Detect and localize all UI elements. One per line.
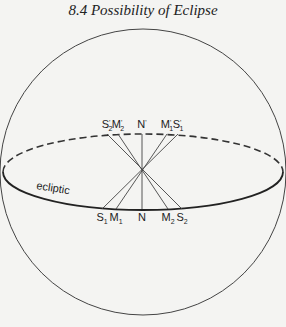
point-label-n: N <box>138 211 146 223</box>
ecliptic-label: ecliptic <box>36 179 72 196</box>
point-label-m1: M1 <box>109 211 122 225</box>
point-label-s2-prime: S'2 <box>102 118 113 132</box>
point-label-n-prime: N' <box>137 118 146 130</box>
point-label-s1-prime: S'1 <box>173 118 184 132</box>
celestial-sphere-diagram: ecliptic S'2M'2N'M'1S'1 S1M1NM2S2 <box>0 0 286 327</box>
point-label-m2-prime: M'2 <box>112 118 125 132</box>
ecliptic-back-dashed <box>3 134 283 172</box>
point-label-s1: S1 <box>96 211 107 225</box>
node-lines <box>102 134 182 209</box>
top-labels: S'2M'2N'M'1S'1 <box>102 118 184 132</box>
bottom-labels: S1M1NM2S2 <box>96 211 187 225</box>
point-label-m2: M2 <box>161 211 174 225</box>
point-label-m1-prime: M'1 <box>161 118 174 132</box>
point-label-s2: S2 <box>176 211 187 225</box>
